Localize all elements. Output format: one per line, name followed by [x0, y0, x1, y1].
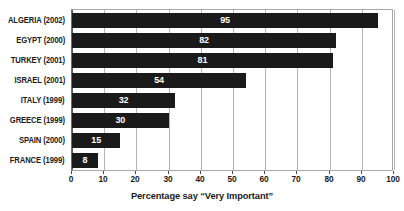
- tick-label: 50: [217, 174, 247, 184]
- value-axis: 0102030405060708090100: [71, 171, 393, 187]
- bar-row[interactable]: 81: [72, 51, 394, 71]
- tick-label: 10: [88, 174, 118, 184]
- bar-row[interactable]: 8: [72, 151, 394, 171]
- tick-label: 40: [185, 174, 215, 184]
- category-label: GREECE (1999): [10, 110, 65, 130]
- category-label: SPAIN (2000): [19, 130, 65, 150]
- bar-value-label: 95: [72, 13, 378, 28]
- bar-value-label: 82: [72, 33, 336, 48]
- bar-series: 958281543230158: [72, 10, 392, 170]
- bar-value-label: 15: [72, 133, 120, 148]
- bar-value-label: 8: [72, 153, 98, 168]
- tick-label: 60: [249, 174, 279, 184]
- category-axis: ALGERIA (2002)EGYPT (2000)TURKEY (2001)I…: [0, 10, 68, 170]
- tick-label: 100: [378, 174, 404, 184]
- bar-row[interactable]: 54: [72, 71, 394, 91]
- tick-label: 90: [346, 174, 376, 184]
- value-axis-title: Percentage say “Very Important”: [0, 191, 404, 201]
- category-label: ITALY (1999): [21, 90, 65, 110]
- category-label: TURKEY (2001): [11, 50, 65, 70]
- bar-row[interactable]: 32: [72, 91, 394, 111]
- tick-label: 0: [56, 174, 86, 184]
- bar-row[interactable]: 30: [72, 111, 394, 131]
- category-label: FRANCE (1999): [10, 150, 65, 170]
- tick-label: 20: [120, 174, 150, 184]
- bar-value-label: 54: [72, 73, 246, 88]
- chart-title: [71, 0, 393, 1]
- gridline-100: [394, 10, 395, 170]
- bar-row[interactable]: 15: [72, 131, 394, 151]
- category-label: ALGERIA (2002): [8, 10, 65, 30]
- bar-value-label: 32: [72, 93, 175, 108]
- category-label: EGYPT (2000): [16, 30, 65, 50]
- tick-label: 80: [314, 174, 344, 184]
- bar-value-label: 81: [72, 53, 333, 68]
- plot-area: 958281543230158: [71, 9, 393, 171]
- category-label: ISRAEL (2001): [14, 70, 65, 90]
- tick-label: 70: [281, 174, 311, 184]
- bar-row[interactable]: 82: [72, 31, 394, 51]
- bar-value-label: 30: [72, 113, 169, 128]
- bar-row[interactable]: 95: [72, 11, 394, 31]
- bar-chart-figure: ALGERIA (2002)EGYPT (2000)TURKEY (2001)I…: [0, 0, 404, 211]
- tick-label: 30: [153, 174, 183, 184]
